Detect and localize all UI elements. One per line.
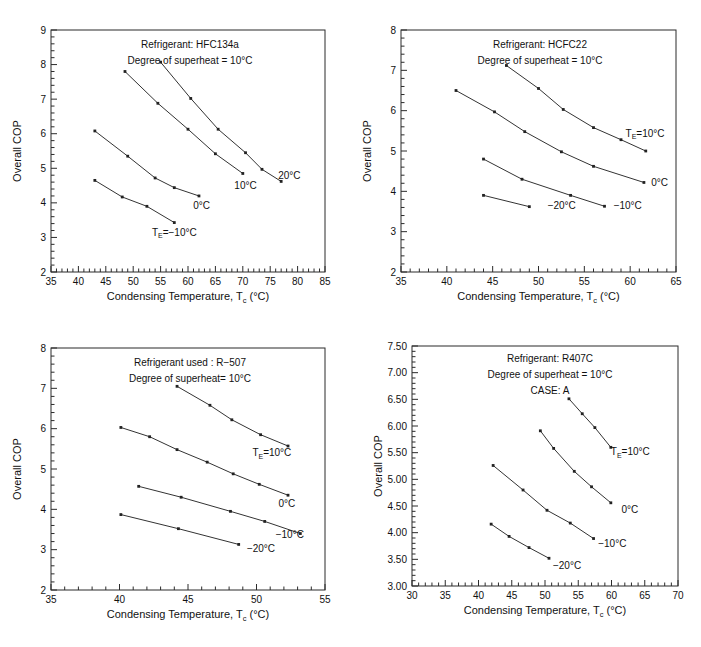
x-tick-label: 60 bbox=[625, 276, 637, 287]
x-tick-label: 50 bbox=[128, 276, 140, 287]
chart-panel-r507: 35404550552345678Refrigerant used : R−50… bbox=[0, 320, 350, 647]
data-point-marker bbox=[124, 70, 127, 73]
x-tick-label: 35 bbox=[440, 590, 452, 601]
x-tick-label: 45 bbox=[487, 276, 499, 287]
series-end-label: 10°C bbox=[234, 180, 256, 191]
series-line bbox=[493, 465, 593, 538]
data-point-marker bbox=[560, 150, 563, 153]
x-tick-label: 45 bbox=[182, 594, 194, 605]
y-tick-label: 5 bbox=[40, 163, 46, 174]
data-point-marker bbox=[177, 527, 180, 530]
data-point-marker bbox=[187, 128, 190, 131]
chart-annotation: Refrigerant: R407C bbox=[507, 353, 593, 364]
y-axis-title: Overall COP bbox=[372, 435, 384, 497]
x-tick-label: 55 bbox=[155, 276, 167, 287]
series-end-label: 0°C bbox=[278, 498, 295, 509]
data-point-marker bbox=[180, 496, 183, 499]
series-end-label: −20°C bbox=[548, 200, 576, 211]
y-tick-label: 4 bbox=[40, 504, 46, 515]
data-point-marker bbox=[176, 448, 179, 451]
data-point-marker bbox=[539, 429, 542, 432]
y-tick-label: 6.50 bbox=[388, 394, 408, 405]
y-tick-label: 5.50 bbox=[388, 447, 408, 458]
y-tick-label: 7 bbox=[390, 65, 396, 76]
data-point-marker bbox=[189, 97, 192, 100]
x-tick-label: 35 bbox=[395, 276, 407, 287]
chart-annotation: Refrigerant: HFC134a bbox=[141, 39, 239, 50]
series-line bbox=[125, 71, 243, 173]
data-point-marker bbox=[548, 557, 551, 560]
data-point-marker bbox=[573, 470, 576, 473]
data-point-marker bbox=[241, 172, 244, 175]
x-tick-label: 40 bbox=[473, 590, 485, 601]
chart-annotation: Degree of superheat = 10°C bbox=[128, 55, 253, 66]
y-tick-label: 4.50 bbox=[388, 501, 408, 512]
data-point-marker bbox=[490, 523, 493, 526]
plot-frame bbox=[412, 346, 678, 586]
data-point-marker bbox=[156, 102, 159, 105]
data-point-marker bbox=[287, 494, 290, 497]
data-point-marker bbox=[523, 130, 526, 133]
chart-annotation: Degree of superheat = 10°C bbox=[478, 55, 603, 66]
y-tick-label: 5 bbox=[390, 146, 396, 157]
y-tick-label: 8 bbox=[40, 59, 46, 70]
data-point-marker bbox=[263, 520, 266, 523]
data-point-marker bbox=[214, 152, 217, 155]
data-point-marker bbox=[609, 501, 612, 504]
chart-annotation: Degree of superheat = 10°C bbox=[488, 369, 613, 380]
y-tick-label: 3 bbox=[40, 544, 46, 555]
data-point-marker bbox=[119, 426, 122, 429]
data-point-marker bbox=[492, 464, 495, 467]
series-end-label: TE=−10°C bbox=[152, 227, 197, 240]
data-point-marker bbox=[230, 418, 233, 421]
x-tick-label: 30 bbox=[406, 590, 418, 601]
data-point-marker bbox=[148, 435, 151, 438]
x-tick-label: 70 bbox=[237, 276, 249, 287]
series-end-label: −10°C bbox=[598, 538, 626, 549]
x-tick-label: 55 bbox=[573, 590, 585, 601]
series-line bbox=[484, 195, 530, 206]
y-tick-label: 9 bbox=[40, 25, 46, 36]
data-point-marker bbox=[173, 186, 176, 189]
x-tick-label: 75 bbox=[265, 276, 277, 287]
chart-annotation: Refrigerant: HCFC22 bbox=[493, 39, 587, 50]
y-tick-label: 6 bbox=[390, 105, 396, 116]
x-tick-label: 45 bbox=[506, 590, 518, 601]
x-tick-label: 40 bbox=[114, 594, 126, 605]
data-point-marker bbox=[592, 126, 595, 129]
series-end-label: 20°C bbox=[278, 170, 300, 181]
panel-hfc134a-svg: 354045505560657075808523456789Refrigeran… bbox=[0, 0, 350, 320]
series-end-label: −10°C bbox=[614, 200, 642, 211]
y-tick-label: 7.00 bbox=[388, 367, 408, 378]
y-tick-label: 8 bbox=[40, 343, 46, 354]
data-point-marker bbox=[593, 426, 596, 429]
series-end-label: 0°C bbox=[193, 200, 210, 211]
data-point-marker bbox=[198, 195, 201, 198]
data-point-marker bbox=[569, 194, 572, 197]
data-point-marker bbox=[521, 178, 524, 181]
series-line bbox=[484, 159, 605, 206]
data-point-marker bbox=[562, 108, 565, 111]
y-tick-label: 3 bbox=[40, 232, 46, 243]
data-point-marker bbox=[546, 509, 549, 512]
x-tick-label: 35 bbox=[45, 594, 57, 605]
series-line bbox=[95, 131, 199, 196]
data-point-marker bbox=[482, 158, 485, 161]
data-point-marker bbox=[592, 165, 595, 168]
data-point-marker bbox=[176, 385, 179, 388]
y-tick-label: 4 bbox=[390, 186, 396, 197]
x-tick-label: 85 bbox=[319, 276, 331, 287]
x-tick-label: 50 bbox=[251, 594, 263, 605]
series-line bbox=[491, 524, 549, 558]
series-line bbox=[540, 431, 610, 503]
data-point-marker bbox=[528, 546, 531, 549]
data-point-marker bbox=[93, 130, 96, 133]
plot-frame bbox=[401, 30, 676, 272]
x-tick-label: 55 bbox=[319, 594, 331, 605]
y-tick-label: 7 bbox=[40, 383, 46, 394]
data-point-marker bbox=[146, 205, 149, 208]
x-tick-label: 60 bbox=[606, 590, 618, 601]
data-point-marker bbox=[537, 87, 540, 90]
data-point-marker bbox=[603, 205, 606, 208]
data-point-marker bbox=[644, 150, 647, 153]
